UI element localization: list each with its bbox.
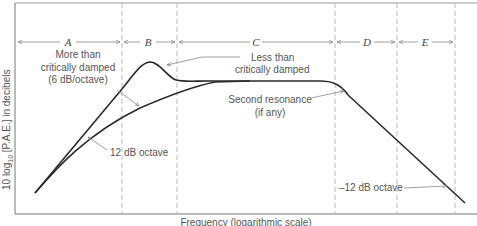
annotation-slope-up: 12 dB octave — [110, 147, 169, 158]
region-label-c: C — [252, 36, 260, 48]
annotation-overdamped-1: More than — [55, 49, 100, 60]
y-axis-label: 10 log10 [P.A.E.] in decibels — [1, 70, 14, 190]
leader-lines — [88, 57, 447, 188]
region-dividers — [122, 3, 455, 214]
region-label-a: A — [64, 36, 72, 48]
frequency-response-diagram: A B C D E More than critically damped (6… — [0, 0, 477, 226]
plot-frame — [15, 3, 477, 214]
region-label-d: D — [362, 36, 371, 48]
annotation-overdamped-3: (6 dB/octave) — [48, 74, 107, 85]
region-label-b: B — [145, 36, 152, 48]
x-axis-label: Frequency (logarithmic scale) — [180, 217, 311, 226]
annotation-second-resonance-2: (if any) — [255, 107, 286, 118]
annotation-second-resonance-1: Second resonance — [228, 94, 312, 105]
curve-overdamped — [35, 81, 250, 193]
annotation-underdamped-2: critically damped — [235, 64, 309, 75]
annotation-overdamped-2: critically damped — [41, 62, 115, 73]
annotation-slope-down: –12 dB octave — [339, 182, 403, 193]
region-label-e: E — [421, 36, 429, 48]
annotation-underdamped-1: Less than — [251, 52, 294, 63]
